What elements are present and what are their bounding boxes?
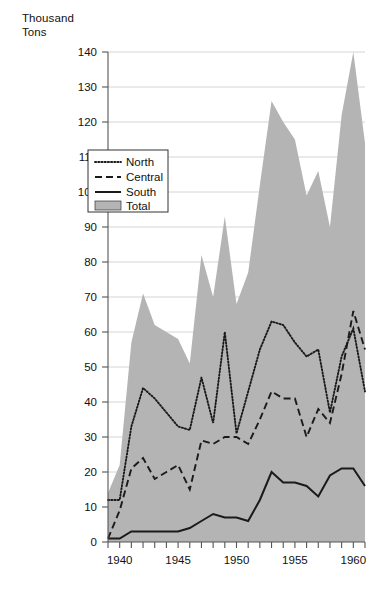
y-tick-label: 10 [84,501,97,513]
x-tick-label: 1960 [341,554,367,566]
legend-swatch-total [95,201,121,210]
y-tick-label: 30 [84,431,97,443]
y-tick-label: 130 [78,81,97,93]
y-tick-label: 70 [84,291,97,303]
y-tick-label: 0 [91,536,97,548]
legend-label-total: Total [126,200,150,212]
y-tick-label: 60 [84,326,97,338]
y-tick-label: 50 [84,361,97,373]
x-axis-ticks: 19401945195019551960 [107,542,366,566]
chart-legend: NorthCentralSouthTotal [88,150,168,212]
legend-label-north: North [126,156,154,168]
y-tick-label: 80 [84,256,97,268]
x-tick-label: 1950 [224,554,250,566]
chart-svg: 0102030405060708090100110120130140 19401… [0,0,376,599]
y-tick-label: 20 [84,466,97,478]
y-tick-label: 40 [84,396,97,408]
x-tick-label: 1940 [107,554,133,566]
legend-label-central: Central [126,171,163,183]
y-tick-label: 120 [78,116,97,128]
x-tick-label: 1955 [282,554,308,566]
chart-container: Thousand Tons 01020304050607080901001101… [0,0,376,599]
y-tick-label: 140 [78,46,97,58]
legend-label-south: South [126,186,156,198]
y-axis-ticks: 0102030405060708090100110120130140 [78,46,108,548]
y-tick-label: 90 [84,221,97,233]
x-tick-label: 1945 [165,554,191,566]
